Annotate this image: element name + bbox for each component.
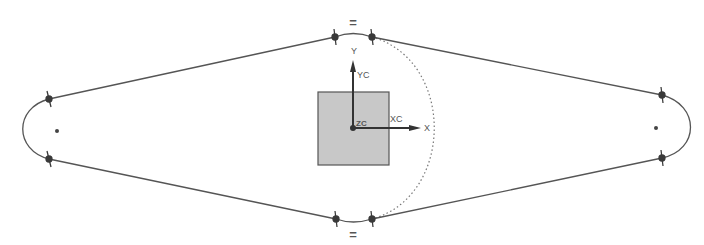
equal-constraint-top[interactable]: = — [349, 15, 357, 30]
xc-arrow-icon — [409, 125, 421, 131]
left-arc-center-point[interactable] — [55, 129, 59, 133]
x-axis-label: X — [424, 123, 430, 133]
endpoint-marker[interactable] — [369, 211, 375, 227]
yc-arrow-icon — [350, 60, 356, 72]
top-right-line[interactable] — [372, 37, 662, 95]
endpoint-marker[interactable] — [659, 150, 665, 166]
yc-axis-label: YC — [357, 70, 370, 80]
coordinate-system[interactable]: Y YC XC X ZC — [350, 46, 430, 133]
endpoint-marker[interactable] — [46, 151, 52, 167]
endpoint-marker[interactable] — [46, 91, 52, 107]
bottom-arc[interactable] — [336, 219, 372, 222]
xc-axis-label: XC — [390, 114, 403, 124]
top-left-line[interactable] — [49, 37, 335, 99]
bottom-left-line[interactable] — [49, 159, 336, 219]
endpoint-marker[interactable] — [332, 29, 338, 45]
equal-constraint-bottom[interactable]: = — [349, 227, 357, 242]
endpoint-marker[interactable] — [369, 29, 375, 45]
right-arc-center-point[interactable] — [654, 126, 658, 130]
left-arc[interactable] — [23, 99, 49, 159]
endpoint-marker[interactable] — [333, 211, 339, 227]
right-arc[interactable] — [662, 95, 691, 158]
top-arc[interactable] — [335, 34, 372, 38]
bottom-right-line[interactable] — [372, 158, 662, 219]
sketch-canvas[interactable]: = = Y YC XC X ZC — [0, 0, 704, 245]
endpoint-marker[interactable] — [659, 87, 665, 103]
y-axis-label: Y — [351, 46, 357, 56]
zc-axis-label: ZC — [356, 119, 367, 128]
